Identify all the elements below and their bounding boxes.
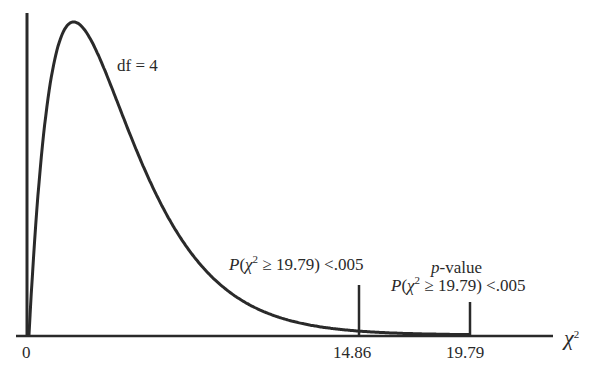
- critical-annotation: P(χ2 ≥ 19.79) <.005: [229, 255, 363, 275]
- chi-symbol: χ: [245, 255, 252, 274]
- chi-symbol: χ: [564, 325, 574, 350]
- p-value-annotation: P(χ2 ≥ 19.79) <.005: [391, 276, 525, 296]
- df-label: df = 4: [117, 56, 158, 76]
- chi-square-chart: [0, 0, 598, 378]
- p-value-title: p-value: [431, 258, 482, 278]
- superscript: 2: [574, 328, 580, 340]
- p-symbol: p: [431, 258, 440, 277]
- prob-symbol: P: [391, 276, 401, 295]
- x-tick-19-79: 19.79: [446, 343, 484, 363]
- annotation-text: ≥ 19.79) <.005: [258, 255, 363, 274]
- x-tick-0: 0: [22, 343, 31, 363]
- x-tick-14-86: 14.86: [333, 343, 371, 363]
- p-value-text: -value: [440, 258, 482, 277]
- chi-symbol: χ: [407, 276, 414, 295]
- x-axis-label: χ2: [564, 325, 579, 351]
- prob-symbol: P: [229, 255, 239, 274]
- annotation-text: ≥ 19.79) <.005: [420, 276, 525, 295]
